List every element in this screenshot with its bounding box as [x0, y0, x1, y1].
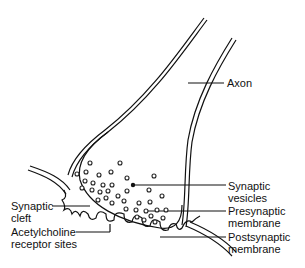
muscle-left-edge: [28, 170, 66, 194]
synaptic-vesicles: [75, 161, 168, 224]
axon-left-wall: [68, 18, 204, 175]
presynaptic-membrane: [79, 132, 182, 228]
synaptic-cleft-label-line2: cleft: [11, 212, 31, 224]
postsynaptic-membrane: [62, 190, 200, 230]
presynaptic-label-line2: membrane: [228, 217, 281, 229]
receptor-sites-label-line1: Acetylcholine: [11, 226, 76, 238]
postsynaptic-label-line1: Postsynaptic: [228, 231, 290, 243]
synapse-diagram: Axon Synaptic vesicles Presynaptic membr…: [0, 0, 305, 268]
axon-right-wall: [182, 38, 232, 225]
axon-label: Axon: [227, 77, 252, 89]
synaptic-cleft-label-line1: Synaptic: [11, 200, 53, 212]
muscle-right-edge: [186, 226, 232, 256]
postsynaptic-label-line2: membrane: [228, 243, 281, 255]
synaptic-vesicles-label-line2: vesicles: [228, 192, 267, 204]
receptor-sites-label-line2: receptor sites: [11, 238, 77, 250]
synaptic-vesicles-label-line1: Synaptic: [228, 180, 270, 192]
presynaptic-label-line1: Presynaptic: [228, 205, 285, 217]
